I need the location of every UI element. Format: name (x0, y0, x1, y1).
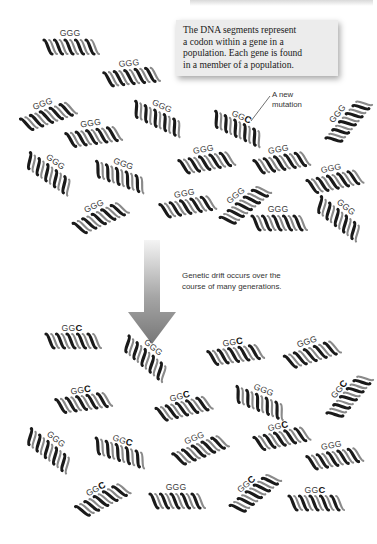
dna-segment: GGG (124, 89, 191, 142)
dna-segment: GGG (146, 482, 206, 512)
codon-label: GGG (248, 204, 308, 214)
dna-segment-mutant: GGC (149, 383, 214, 427)
dna-segment: GGG (314, 87, 376, 152)
callout-line: population. Each gene is found (183, 47, 331, 59)
dna-segment: GGG (40, 28, 100, 58)
codon-label: GGG (146, 482, 206, 492)
dna-segment: GGG (227, 374, 294, 424)
genetic-drift-label: Genetic drift occurs over the course of … (182, 270, 282, 292)
dna-segment: GGG (154, 183, 218, 223)
dna-helix-icon (285, 494, 345, 512)
drift-label-line: course of many generations. (182, 281, 282, 292)
dna-segment: GGG (17, 417, 83, 478)
dna-helix-icon (248, 214, 308, 232)
page-header-strip (190, 0, 373, 6)
dna-segment: GGG (277, 327, 343, 374)
callout-line: in a member of a population. (183, 59, 331, 71)
dna-segment: GGG (87, 149, 154, 198)
dna-helix-icon (146, 492, 206, 510)
dna-segment: GGG (307, 185, 373, 246)
dna-segment: GGG (248, 204, 308, 234)
mutation-label: A new mutation (272, 90, 302, 110)
callout-line: a codon within a gene in a (183, 36, 331, 48)
mutation-label-line: A new (272, 90, 302, 100)
dna-helix-icon (42, 332, 102, 350)
dna-segment-mutant: GGC (315, 362, 377, 427)
dna-segment-mutant: GGC (219, 460, 284, 522)
dna-segment-mutant: GGC (66, 470, 133, 525)
dna-segment: GGG (64, 189, 131, 242)
dna-segment: GGG (173, 139, 237, 179)
dna-segment-mutant: GGC (42, 322, 102, 352)
drift-label-line: Genetic drift occurs over the (182, 270, 282, 281)
dna-segment-mutant: GGC (87, 425, 153, 472)
mutation-label-line: mutation (272, 100, 302, 110)
callout-line: The DNA segments represent (183, 24, 331, 36)
explanation-callout: The DNA segments represent a codon withi… (176, 20, 338, 76)
dna-segment: GGG (99, 55, 162, 91)
dna-segment: GGG (165, 422, 232, 472)
codon-label: GGG (40, 28, 100, 38)
dna-segment-mutant: GGC (50, 380, 114, 418)
dna-segment-mutant: GGC (202, 332, 266, 370)
dna-helix-icon (40, 38, 100, 56)
dna-segment-mutant: GGC (285, 484, 345, 514)
